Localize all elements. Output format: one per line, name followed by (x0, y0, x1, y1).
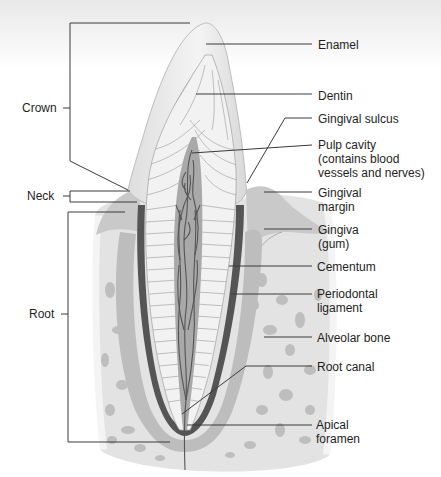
label-cementum: Cementum (317, 260, 376, 274)
label-pulp-cavity: Pulp cavity (contains blood vessels and … (318, 138, 425, 180)
label-gingival-margin: Gingival margin (318, 186, 361, 214)
label-neck: Neck (27, 189, 54, 203)
label-dentin: Dentin (318, 89, 353, 103)
label-enamel: Enamel (318, 38, 359, 52)
label-gingival-sulcus: Gingival sulcus (318, 112, 399, 126)
label-apical-foramen: Apical foramen (316, 418, 360, 446)
label-gingiva: Gingiva (gum) (318, 223, 359, 251)
tooth-anatomy-diagram (0, 0, 441, 477)
label-alveolar-bone: Alveolar bone (317, 331, 390, 345)
label-periodontal-ligament: Periodontal ligament (317, 287, 378, 315)
label-crown: Crown (22, 101, 57, 115)
label-root: Root (29, 307, 54, 321)
leader-gingival-sulcus (247, 118, 312, 183)
label-root-canal: Root canal (317, 360, 374, 374)
